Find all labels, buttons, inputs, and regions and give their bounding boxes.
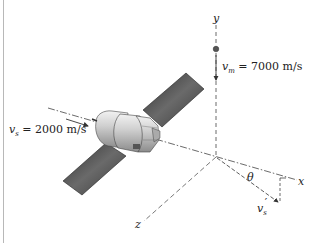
prime-mark: ′ xyxy=(265,196,268,209)
satellite-velocity-label: vs = 2000 m/s xyxy=(9,124,86,138)
z-axis-label: z xyxy=(135,219,141,230)
vs-subscript: s xyxy=(15,130,19,138)
satellite-diagram: y x z vm = 7000 m/s vs = 2000 m/s θ vs′ xyxy=(0,0,318,243)
solar-panel-lower xyxy=(63,143,126,195)
vm-value: = 7000 m/s xyxy=(238,60,302,73)
y-axis-label: y xyxy=(213,13,219,24)
theta-label: θ xyxy=(247,172,254,183)
z-axis xyxy=(144,157,216,221)
solar-panel-upper xyxy=(143,73,204,127)
satellite-body xyxy=(92,111,160,152)
vs-prime-subscript: s xyxy=(263,209,267,217)
satellite-final-velocity-label: vs′ xyxy=(257,203,269,217)
vm-subscript: m xyxy=(228,67,235,75)
meteoroid-velocity-label: vm = 7000 m/s xyxy=(222,61,302,75)
vs-value: = 2000 m/s xyxy=(22,123,86,136)
x-axis-label: x xyxy=(298,176,304,187)
meteoroid-dot xyxy=(213,46,219,52)
diagram-graphics xyxy=(0,0,318,243)
